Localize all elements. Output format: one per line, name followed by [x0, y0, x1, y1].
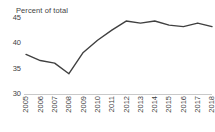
- x-axis: 2005200620072008200920102011201220132014…: [26, 96, 212, 130]
- data-line-svg: [26, 18, 212, 94]
- y-axis: 30354045: [0, 18, 24, 94]
- x-axis-tick-label: 2018: [208, 96, 215, 113]
- line-chart: Percent of total 30354045 20052006200720…: [0, 0, 215, 132]
- x-axis-tick-label: 2015: [165, 96, 173, 113]
- x-axis-tick-label: 2005: [22, 96, 30, 113]
- x-axis-tick-label: 2013: [137, 96, 145, 113]
- x-axis-tick-label: 2009: [80, 96, 88, 113]
- y-axis-tick-label: 45: [13, 14, 21, 22]
- x-axis-tick-label: 2014: [151, 96, 159, 113]
- x-axis-tick-label: 2012: [123, 96, 131, 113]
- y-axis-tick-label: 35: [13, 65, 21, 73]
- x-axis-tick-label: 2010: [94, 96, 102, 113]
- data-series-line: [26, 21, 212, 74]
- x-axis-tick-label: 2008: [65, 96, 73, 113]
- y-axis-tick-label: 40: [13, 40, 21, 48]
- x-axis-tick-label: 2017: [194, 96, 202, 113]
- chart-title: Percent of total: [16, 6, 68, 15]
- x-axis-tick-label: 2016: [180, 96, 188, 113]
- x-axis-tick-label: 2007: [51, 96, 59, 113]
- x-axis-line: [24, 94, 212, 95]
- x-axis-tick-label: 2006: [37, 96, 45, 113]
- y-axis-tick-label: 30: [13, 90, 21, 98]
- x-axis-tick-label: 2011: [108, 96, 116, 112]
- plot-area: [26, 18, 212, 94]
